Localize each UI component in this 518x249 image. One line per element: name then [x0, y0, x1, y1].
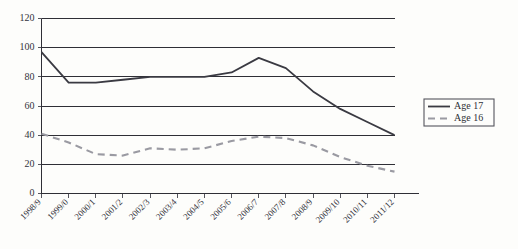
x-axis-label-3: 2001/2 — [100, 197, 125, 222]
legend-label-age-16: Age 16 — [454, 112, 483, 123]
y-axis-label-120: 120 — [20, 12, 35, 23]
y-axis-label-0: 0 — [30, 187, 35, 198]
x-axis-label-13: 2011/12 — [368, 197, 396, 225]
x-axis-label-6: 2004/5 — [181, 197, 206, 222]
x-axis-label-7: 2005/6 — [208, 197, 233, 222]
x-axis-label-0: 1998/9 — [18, 197, 43, 222]
x-axis-label-1: 1999/0 — [45, 197, 70, 222]
y-axis-label-100: 100 — [20, 41, 35, 52]
x-axis-label-11: 2009/10 — [314, 197, 342, 225]
y-axis-label-20: 20 — [25, 158, 35, 169]
x-axis-label-5: 2003/4 — [154, 197, 179, 222]
x-axis-label-12: 2010/11 — [341, 197, 369, 225]
x-axis-label-2: 2000/1 — [72, 197, 97, 222]
chart-canvas: 0204060801001201998/91999/02000/12001/22… — [0, 0, 518, 249]
x-axis-label-4: 2002/3 — [127, 197, 152, 222]
y-axis-label-60: 60 — [25, 100, 35, 111]
legend: Age 17Age 16 — [424, 99, 494, 126]
y-axis-label-80: 80 — [25, 71, 35, 82]
x-axis-labels-group: 1998/91999/02000/12001/22002/32003/42004… — [18, 194, 396, 225]
line-chart: 0204060801001201998/91999/02000/12001/22… — [0, 0, 518, 249]
series-line-age-16 — [42, 134, 395, 172]
x-axis-label-8: 2006/7 — [235, 197, 260, 222]
x-axis-label-9: 2007/8 — [263, 197, 288, 222]
x-axis-label-10: 2008/9 — [290, 197, 315, 222]
y-axis-label-40: 40 — [25, 129, 35, 140]
series-line-age-17 — [42, 52, 395, 135]
series-group — [42, 52, 395, 172]
legend-label-age-17: Age 17 — [454, 100, 483, 111]
gridlines-group: 020406080100120 — [20, 12, 395, 198]
